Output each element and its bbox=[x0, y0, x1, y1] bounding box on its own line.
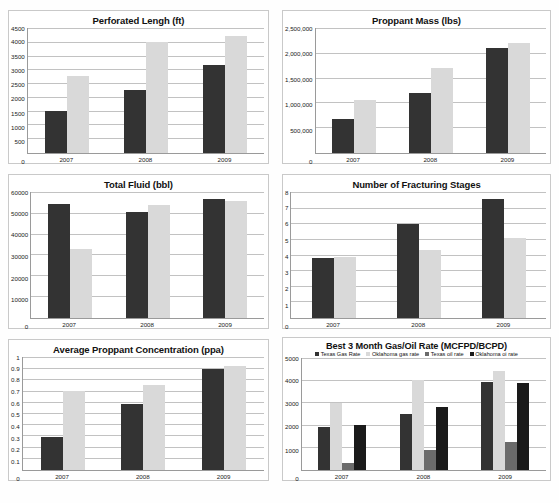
y-tick-label: 2500 bbox=[11, 82, 25, 88]
y-tick-label: 40000 bbox=[11, 232, 28, 238]
chart-grid: Perforated Lengh (ft) 450040003500300025… bbox=[0, 0, 559, 503]
y-tick-label: 50000 bbox=[11, 211, 28, 217]
bar-groups bbox=[31, 192, 264, 318]
y-tick-label: 0.5 bbox=[11, 412, 20, 418]
chart-proppant-mass: Proppant Mass (lbs) 2,500,0002,000,0001,… bbox=[283, 11, 550, 163]
bar-texas bbox=[45, 111, 67, 153]
x-tick-label: 2009 bbox=[469, 156, 546, 163]
bar-texas bbox=[486, 48, 508, 154]
legend-item: Texas oil rate bbox=[425, 351, 463, 357]
y-tick-label: 0.9 bbox=[11, 366, 20, 372]
legend-swatch-icon bbox=[366, 352, 370, 356]
bar-oklahoma-gas-rate bbox=[493, 371, 505, 470]
y-axis-ticks: 450040003500300025002000150010005000 bbox=[11, 28, 27, 163]
y-tick-label: 8 bbox=[285, 190, 288, 196]
bar-texas bbox=[121, 404, 143, 470]
bar-texas bbox=[124, 90, 146, 153]
bar-texas bbox=[332, 119, 354, 154]
y-tick-label: 500 bbox=[14, 139, 24, 145]
y-tick-label: 0.1 bbox=[11, 459, 20, 465]
y-tick-label: 1500 bbox=[11, 111, 25, 117]
legend-swatch-icon bbox=[425, 352, 429, 356]
y-tick-label: 5 bbox=[285, 238, 288, 244]
chart-fracturing-stages: Number of Fracturing Stages 876543210 20… bbox=[283, 175, 550, 328]
y-axis-ticks: 2,500,0002,000,0001,500,0001,000,000500,… bbox=[285, 28, 315, 163]
bar-texas-gas-rate bbox=[400, 414, 412, 470]
bar-oklahoma bbox=[504, 238, 526, 318]
legend-swatch-icon bbox=[470, 352, 474, 356]
panel-frame: Best 3 Month Gas/Oil Rate (MCFPD/BCPD) T… bbox=[282, 337, 551, 481]
bar-texas bbox=[48, 204, 70, 318]
bar-group-2007 bbox=[291, 192, 376, 318]
panel-frame: Perforated Lengh (ft) 450040003500300025… bbox=[8, 10, 269, 164]
chart-panel-average-proppant-concentration: Average Proppant Concentration (ppa) 10.… bbox=[0, 335, 277, 503]
bar-group-2008 bbox=[383, 358, 464, 470]
bar-texas bbox=[203, 65, 225, 153]
bar-texas bbox=[312, 258, 334, 318]
bar-oklahoma bbox=[225, 36, 247, 154]
x-tick-label: 2007 bbox=[27, 156, 106, 163]
y-tick-label: 0 bbox=[25, 324, 28, 330]
figure-sheet: Perforated Lengh (ft) 450040003500300025… bbox=[0, 0, 559, 503]
y-tick-label: 0.4 bbox=[11, 424, 20, 430]
bar-oklahoma bbox=[334, 257, 356, 318]
y-tick-label: 2 bbox=[285, 286, 288, 292]
x-tick-label: 2008 bbox=[108, 321, 186, 328]
plot-area: 450040003500300025002000150010005000 200… bbox=[9, 28, 268, 163]
x-axis-labels: 200720082009 bbox=[27, 154, 264, 163]
bar-group-2008 bbox=[103, 357, 183, 470]
y-tick-label: 0 bbox=[295, 476, 298, 482]
x-tick-label: 2009 bbox=[461, 321, 546, 328]
y-tick-label: 3 bbox=[285, 270, 288, 276]
chart-total-fluid: Total Fluid (bbl) 6000050000400003000020… bbox=[9, 175, 268, 328]
y-tick-label: 0.3 bbox=[11, 436, 20, 442]
bar-texas-gas-rate bbox=[481, 382, 493, 470]
y-tick-label: 1,000,000 bbox=[285, 102, 313, 108]
bar-oklahoma-gas-rate bbox=[412, 380, 424, 470]
plot-canvas bbox=[315, 28, 546, 154]
x-tick-label: 2008 bbox=[106, 156, 185, 163]
legend-item: Texas Gas Rate bbox=[315, 351, 360, 357]
y-tick-label: 0 bbox=[285, 324, 288, 330]
legend-label: Texas oil rate bbox=[431, 351, 464, 357]
y-tick-label: 30000 bbox=[11, 254, 28, 260]
y-tick-label: 1000 bbox=[11, 125, 25, 131]
bar-texas-oil-rate bbox=[342, 463, 354, 470]
panel-frame: Number of Fracturing Stages 876543210 20… bbox=[282, 174, 551, 329]
chart-title: Number of Fracturing Stages bbox=[283, 175, 550, 192]
bar-group-2008 bbox=[376, 192, 461, 318]
chart-legend: Texas Gas RateOklahoma gas rateTexas oil… bbox=[283, 351, 550, 358]
y-tick-label: 0 bbox=[309, 159, 312, 165]
chart-panel-proppant-mass: Proppant Mass (lbs) 2,500,0002,000,0001,… bbox=[277, 0, 559, 170]
plot-area: 500040003000200010000 200720082009 bbox=[283, 358, 550, 480]
x-tick-label: 2007 bbox=[301, 473, 383, 480]
y-axis-ticks: 10.90.80.70.60.50.40.30.20.10 bbox=[11, 357, 22, 480]
chart-average-proppant-concentration: Average Proppant Concentration (ppa) 10.… bbox=[9, 340, 268, 480]
panel-frame: Total Fluid (bbl) 6000050000400003000020… bbox=[8, 174, 269, 329]
y-tick-label: 5000 bbox=[285, 356, 299, 362]
y-tick-label: 20000 bbox=[11, 275, 28, 281]
y-tick-label: 3000 bbox=[11, 68, 25, 74]
bar-texas bbox=[126, 212, 148, 318]
bar-group-2009 bbox=[184, 357, 264, 470]
plot-area: 876543210 200720082009 bbox=[283, 192, 550, 328]
x-axis-labels: 200720082009 bbox=[30, 319, 264, 328]
bar-texas bbox=[202, 369, 224, 470]
x-axis-labels: 200720082009 bbox=[22, 471, 264, 480]
bar-oklahoma bbox=[508, 43, 530, 154]
legend-label: Oklahoma oi rate bbox=[475, 351, 518, 357]
chart-title: Perforated Lengh (ft) bbox=[9, 11, 268, 28]
x-tick-label: 2007 bbox=[30, 321, 108, 328]
bar-texas bbox=[482, 199, 504, 318]
bar-oklahoma-oi-rate bbox=[354, 425, 366, 470]
bar-groups bbox=[302, 358, 546, 470]
bar-group-2009 bbox=[469, 28, 546, 153]
y-tick-label: 0.8 bbox=[11, 377, 20, 383]
bar-group-2007 bbox=[302, 358, 383, 470]
chart-best-3-month-rate: Best 3 Month Gas/Oil Rate (MCFPD/BCPD) T… bbox=[283, 338, 550, 480]
y-tick-label: 4000 bbox=[11, 39, 25, 45]
legend-swatch-icon bbox=[315, 352, 319, 356]
chart-title: Best 3 Month Gas/Oil Rate (MCFPD/BCPD) bbox=[283, 338, 550, 351]
y-axis-ticks: 6000050000400003000020000100000 bbox=[11, 192, 30, 328]
legend-item: Oklahoma gas rate bbox=[366, 351, 419, 357]
